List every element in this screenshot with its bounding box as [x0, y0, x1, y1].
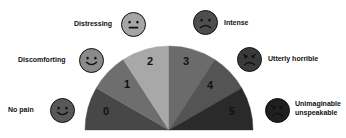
smiley-slight-smile-face[interactable] — [79, 48, 104, 73]
pain-segment-label-4: 4 — [202, 80, 218, 91]
pain-segment-label-0: 0 — [98, 106, 114, 117]
smiley-very-angry-face[interactable] — [265, 98, 290, 123]
caption-line-2: unspeakable — [295, 109, 337, 116]
pain-caption-utterly-horrible: Utterly horrible — [268, 55, 318, 64]
smiley-angry-face[interactable] — [237, 47, 262, 72]
smiley-frown-face[interactable] — [193, 10, 218, 35]
caption-line-1: Unimaginable — [295, 100, 341, 107]
pain-caption-distressing: Distressing — [74, 20, 112, 29]
pain-caption-unimaginable-unspeakable: Unimaginableunspeakable — [295, 100, 346, 118]
smiley-neutral-face[interactable] — [121, 12, 146, 37]
pain-segment-label-2: 2 — [142, 56, 158, 67]
pain-caption-discomforting: Discomforting — [18, 56, 65, 65]
smiley-happy-face[interactable] — [50, 98, 75, 123]
pain-caption-no-pain: No pain — [8, 106, 34, 115]
pain-segment-label-5: 5 — [224, 106, 240, 117]
pain-segment-label-1: 1 — [119, 79, 135, 90]
pain-caption-intense: Intense — [224, 19, 249, 28]
pain-segment-label-3: 3 — [178, 56, 194, 67]
